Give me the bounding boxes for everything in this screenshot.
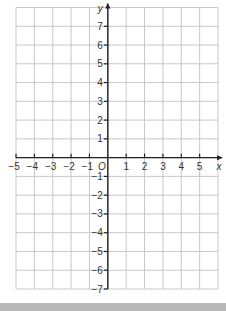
y-tick-label: 6: [97, 40, 103, 51]
y-tick-label: −7: [91, 284, 103, 295]
y-tick-label: 2: [97, 115, 103, 126]
y-tick-label: −1: [91, 171, 103, 182]
y-tick-label: 7: [97, 21, 103, 32]
x-tick-label: −4: [27, 161, 39, 172]
y-tick-label: −4: [91, 227, 103, 238]
coordinate-plane: −5−4−3−2−1123457654321−1−2−3−4−5−6−7xyO: [0, 0, 226, 303]
x-tick-label: −3: [45, 161, 57, 172]
x-tick-label: 1: [123, 161, 129, 172]
x-tick-label: −5: [8, 161, 20, 172]
x-tick-label: 5: [197, 161, 203, 172]
x-axis-arrow-icon: [217, 155, 223, 160]
x-tick-label: 4: [178, 161, 184, 172]
y-tick-label: 5: [97, 58, 103, 69]
x-axis-label: x: [216, 161, 223, 172]
x-tick-label: −2: [63, 161, 75, 172]
y-tick-label: −5: [91, 246, 103, 257]
y-tick-label: 1: [97, 133, 103, 144]
axis-labels: −5−4−3−2−1123457654321−1−2−3−4−5−6−7xyO: [8, 3, 222, 295]
grid-lines: [16, 8, 218, 290]
x-tick-label: 2: [142, 161, 148, 172]
coordinate-grid-diagram: −5−4−3−2−1123457654321−1−2−3−4−5−6−7xyO: [0, 0, 226, 311]
y-tick-label: 4: [97, 77, 103, 88]
y-tick-label: −3: [91, 208, 103, 219]
y-axis-label: y: [97, 3, 104, 14]
y-axis-arrow-icon: [105, 3, 110, 9]
bottom-bar: [0, 303, 226, 311]
x-tick-label: 3: [160, 161, 166, 172]
y-tick-label: −2: [91, 190, 103, 201]
y-tick-label: −6: [91, 265, 103, 276]
y-tick-label: 3: [97, 96, 103, 107]
origin-label: O: [98, 161, 106, 172]
